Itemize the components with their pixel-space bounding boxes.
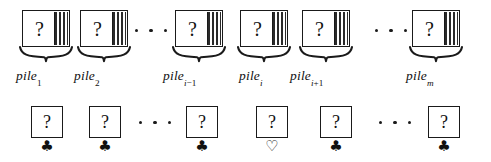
pile-label-subscript: i+1 xyxy=(311,78,323,88)
pile-underbrace-m xyxy=(409,47,463,62)
ellipsis-dot xyxy=(168,121,171,124)
single-card-i: ? xyxy=(256,106,288,138)
pile-card-i-plus-1: ? xyxy=(302,10,350,47)
pile-label-base: pile xyxy=(163,68,184,83)
pile-label-1: pile1 xyxy=(16,69,42,83)
pile-label-i-plus-1: pilei+1 xyxy=(290,69,323,83)
pile-label-subscript: i−1 xyxy=(184,78,196,88)
club-icon-i-plus-1: ♣ xyxy=(320,139,352,154)
pile-card-question-mark: ? xyxy=(240,10,275,48)
pile-underbrace-2 xyxy=(77,47,131,62)
ellipsis-dot xyxy=(149,29,152,32)
pile-row-ellipsis-right xyxy=(375,29,407,32)
pile-card-stack-stripes xyxy=(54,12,68,46)
card-row-ellipsis-right xyxy=(379,121,411,124)
pile-card-question-mark: ? xyxy=(175,10,210,48)
single-card-question-mark: ? xyxy=(256,106,288,139)
pile-underbrace-1 xyxy=(19,47,73,62)
pile-label-subscript: i xyxy=(260,78,263,88)
pile-underbrace-i-minus-1 xyxy=(172,47,226,62)
single-card-1: ? xyxy=(31,106,63,138)
pile-card-stack-stripes xyxy=(272,12,286,46)
pile-label-i: pilei xyxy=(239,69,263,83)
pile-card-i-minus-1: ? xyxy=(175,10,223,47)
pile-underbrace-i xyxy=(237,47,291,62)
pile-label-base: pile xyxy=(16,68,37,83)
pile-row-ellipsis-left xyxy=(135,29,167,32)
pile-card-stack-stripes xyxy=(207,12,221,46)
ellipsis-dot xyxy=(153,121,156,124)
ellipsis-dot xyxy=(135,29,138,32)
pile-label-base: pile xyxy=(74,68,95,83)
pile-card-question-mark: ? xyxy=(80,10,115,48)
single-card-question-mark: ? xyxy=(186,106,218,139)
pile-label-base: pile xyxy=(290,68,311,83)
pile-label-subscript: 1 xyxy=(37,78,42,88)
ellipsis-dot xyxy=(393,121,396,124)
single-card-m: ? xyxy=(428,106,460,138)
pile-card-stack-stripes xyxy=(112,12,126,46)
single-card-i-minus-1: ? xyxy=(186,106,218,138)
pile-card-question-mark: ? xyxy=(412,10,447,48)
ellipsis-dot xyxy=(375,29,378,32)
ellipsis-dot xyxy=(408,121,411,124)
single-card-question-mark: ? xyxy=(428,106,460,139)
pile-label-base: pile xyxy=(406,68,427,83)
pile-label-base: pile xyxy=(239,68,260,83)
pile-card-stack-stripes xyxy=(334,12,348,46)
piles-figure: ? pile1 ? pile2 ? pilei xyxy=(0,0,491,162)
pile-label-i-minus-1: pilei−1 xyxy=(163,69,196,83)
pile-card-stack-stripes xyxy=(444,12,458,46)
pile-card-question-mark: ? xyxy=(302,10,337,48)
pile-card-1: ? xyxy=(22,10,70,47)
pile-underbrace-i-plus-1 xyxy=(299,47,353,62)
pile-label-2: pile2 xyxy=(74,69,100,83)
pile-label-subscript: 2 xyxy=(95,78,100,88)
club-icon-1: ♣ xyxy=(31,139,63,154)
club-icon-i-minus-1: ♣ xyxy=(186,139,218,154)
ellipsis-dot xyxy=(139,121,142,124)
pile-card-question-mark: ? xyxy=(22,10,57,48)
pile-label-subscript: m xyxy=(427,78,434,88)
card-row-ellipsis-left xyxy=(139,121,171,124)
pile-label-m: pilem xyxy=(406,69,434,83)
club-icon-2: ♣ xyxy=(89,139,121,154)
single-card-2: ? xyxy=(89,106,121,138)
club-icon-m: ♣ xyxy=(428,139,460,154)
ellipsis-dot xyxy=(164,29,167,32)
ellipsis-dot xyxy=(389,29,392,32)
ellipsis-dot xyxy=(404,29,407,32)
single-card-question-mark: ? xyxy=(89,106,121,139)
single-card-i-plus-1: ? xyxy=(320,106,352,138)
ellipsis-dot xyxy=(379,121,382,124)
heart-outline-icon-i: ♡ xyxy=(256,139,288,154)
pile-card-2: ? xyxy=(80,10,128,47)
single-card-question-mark: ? xyxy=(31,106,63,139)
pile-card-i: ? xyxy=(240,10,288,47)
pile-card-m: ? xyxy=(412,10,460,47)
single-card-question-mark: ? xyxy=(320,106,352,139)
